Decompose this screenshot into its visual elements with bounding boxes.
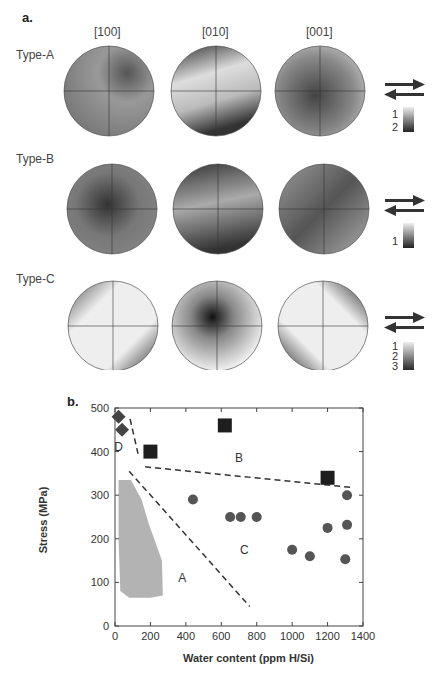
data-point (236, 512, 246, 522)
y-axis-title: Stress (MPa) (37, 487, 49, 554)
y-tick-label: 200 (91, 533, 109, 545)
type-a-shaded-region (119, 480, 163, 598)
boundary-line (145, 467, 350, 487)
boundary-line (130, 419, 138, 454)
y-tick-label: 400 (91, 446, 109, 458)
data-point (342, 520, 352, 530)
data-point (218, 418, 232, 432)
x-axis-title: Water content (ppm H/Si) (183, 652, 314, 664)
x-tick-label: 0 (112, 630, 118, 642)
data-point (321, 471, 335, 485)
data-point (305, 551, 315, 561)
x-tick-label: 600 (212, 630, 230, 642)
x-tick-label: 800 (248, 630, 266, 642)
data-point (143, 445, 157, 459)
data-point (112, 410, 126, 424)
region-label: A (178, 571, 186, 585)
region-label: C (240, 543, 249, 557)
y-tick-label: 100 (91, 576, 109, 588)
data-point (323, 523, 333, 533)
region-label: B (235, 451, 243, 465)
data-point (340, 554, 350, 564)
y-tick-label: 300 (91, 489, 109, 501)
x-tick-label: 200 (141, 630, 159, 642)
y-tick-label: 500 (91, 402, 109, 414)
x-tick-label: 1200 (315, 630, 339, 642)
data-point (252, 512, 262, 522)
data-point (287, 545, 297, 555)
data-point (342, 490, 352, 500)
data-point (225, 512, 235, 522)
data-point (188, 495, 198, 505)
x-tick-label: 1000 (280, 630, 304, 642)
x-tick-label: 400 (177, 630, 195, 642)
data-point (115, 423, 129, 437)
region-label: D (114, 440, 123, 454)
x-tick-label: 1400 (351, 630, 375, 642)
stress-water-chart: 0200400600800100012001400010020030040050… (0, 0, 439, 674)
y-tick-label: 0 (103, 620, 109, 632)
